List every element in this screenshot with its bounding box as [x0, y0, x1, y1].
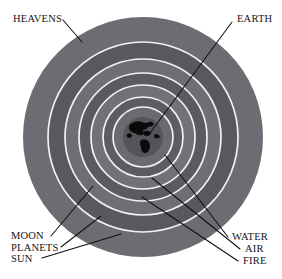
label-water: WATER: [232, 231, 268, 242]
leader-line-heavens: [63, 20, 82, 42]
label-fire: FIRE: [243, 255, 267, 266]
label-sun: SUN: [11, 253, 33, 264]
label-moon: MOON: [11, 230, 44, 241]
label-heavens: HEAVENS: [13, 13, 62, 24]
cosmos-diagram: HEAVENS EARTH MOON PLANETS SUN WATER AIR…: [0, 0, 282, 279]
label-planets: PLANETS: [11, 242, 59, 253]
cosmos-diagram-canvas: HEAVENS EARTH MOON PLANETS SUN WATER AIR…: [0, 0, 282, 279]
label-earth: EARTH: [237, 13, 273, 24]
label-air: AIR: [245, 243, 264, 254]
